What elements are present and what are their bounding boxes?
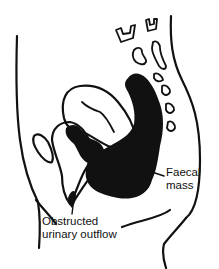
anterior-abdominal-wall [16,36,39,248]
vertebra-1 [116,25,135,42]
vertebra-4 [152,41,166,69]
vertebra-3 [133,48,146,64]
small-organ-outline [33,134,53,162]
faecal-mass [86,74,163,199]
urinary-outflow-label-line2: urinary outflow [42,228,117,241]
faecal-mass-label: Faecal mass [166,166,201,192]
faecal-mass-label-line2: mass [166,179,201,192]
perineum-curve [122,210,170,227]
vertebra-2 [146,19,157,31]
urinary-outflow-label: Obstructed urinary outflow [42,215,117,241]
buttock-curve [163,218,186,268]
vertebra-8 [167,121,175,131]
urinary-outflow-label-line1: Obstructed [42,215,117,228]
vertebra-6 [162,85,170,95]
vertebra-5 [154,73,163,81]
urethra-dark [68,191,76,208]
vertebra-7 [166,103,174,113]
inner-uterus-line [82,102,114,132]
faecal-mass-label-line1: Faecal [166,166,201,179]
